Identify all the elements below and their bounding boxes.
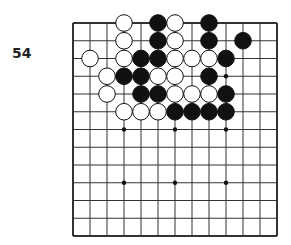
black-stone xyxy=(150,32,167,49)
star-point xyxy=(122,127,126,131)
black-stone xyxy=(150,15,167,32)
black-stone xyxy=(133,68,150,85)
white-stone xyxy=(167,86,184,103)
white-stone xyxy=(150,68,167,85)
black-stone xyxy=(167,103,184,120)
black-stone xyxy=(201,32,218,49)
star-point xyxy=(224,127,228,131)
star-point xyxy=(224,74,228,78)
black-stone xyxy=(150,50,167,67)
black-stone xyxy=(184,103,201,120)
black-stone xyxy=(201,15,218,32)
black-stone xyxy=(218,103,235,120)
white-stone xyxy=(133,103,150,120)
white-stone xyxy=(99,68,116,85)
black-stone xyxy=(235,32,252,49)
black-stone xyxy=(218,86,235,103)
black-stone xyxy=(201,68,218,85)
black-stone xyxy=(133,86,150,103)
white-stone xyxy=(116,103,133,120)
go-board[interactable] xyxy=(0,0,291,245)
white-stone xyxy=(167,15,184,32)
white-stone xyxy=(116,50,133,67)
star-point xyxy=(173,181,177,185)
white-stone xyxy=(116,32,133,49)
star-point xyxy=(122,181,126,185)
white-stone xyxy=(184,86,201,103)
black-stone xyxy=(116,68,133,85)
white-stone xyxy=(167,68,184,85)
black-stone xyxy=(201,103,218,120)
white-stone xyxy=(201,86,218,103)
white-stone xyxy=(167,50,184,67)
white-stone xyxy=(99,86,116,103)
black-stone xyxy=(150,86,167,103)
white-stone xyxy=(201,50,218,67)
white-stone xyxy=(116,15,133,32)
white-stone xyxy=(167,32,184,49)
black-stone xyxy=(218,50,235,67)
white-stone xyxy=(82,50,99,67)
black-stone xyxy=(133,50,150,67)
white-stone xyxy=(184,50,201,67)
star-point xyxy=(224,181,228,185)
star-point xyxy=(173,127,177,131)
white-stone xyxy=(150,103,167,120)
